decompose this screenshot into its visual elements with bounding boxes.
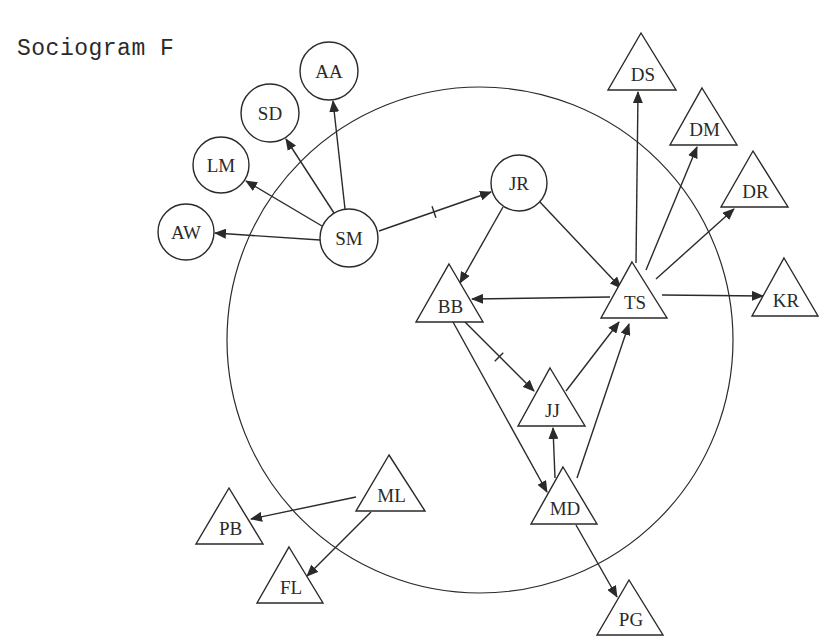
nodes-layer: AASDLMAWSMJRDSDMDRBBTSKRJJMDMLPBFLPG bbox=[158, 33, 818, 635]
tick-mark bbox=[495, 353, 503, 361]
node-label: SD bbox=[258, 103, 282, 124]
node-sd: SD bbox=[241, 84, 299, 142]
arrow-line bbox=[333, 101, 345, 209]
edge-ml-to-pb bbox=[251, 497, 356, 519]
node-label: DS bbox=[631, 64, 655, 85]
node-aa: AA bbox=[300, 42, 358, 100]
edge-jj-to-ts bbox=[566, 322, 619, 391]
node-label: FL bbox=[280, 577, 302, 598]
edge-ts-to-dm bbox=[646, 147, 697, 270]
node-kr: KR bbox=[752, 258, 818, 316]
node-fl: FL bbox=[257, 547, 323, 603]
node-label: DR bbox=[742, 181, 769, 202]
node-sm: SM bbox=[320, 209, 378, 267]
arrow-line bbox=[307, 512, 371, 576]
edge-sm-to-jr bbox=[379, 192, 491, 231]
node-label: AW bbox=[171, 222, 201, 243]
node-jr: JR bbox=[491, 155, 547, 211]
node-label: SM bbox=[335, 228, 363, 249]
arrow-line bbox=[576, 525, 617, 597]
node-label: JR bbox=[509, 173, 529, 194]
node-dm: DM bbox=[670, 88, 737, 145]
arrow-line bbox=[646, 147, 697, 270]
node-label: JJ bbox=[545, 400, 560, 421]
node-lm: LM bbox=[193, 137, 249, 193]
edge-ts-to-bb bbox=[472, 297, 610, 299]
sociogram-diagram: AASDLMAWSMJRDSDMDRBBTSKRJJMDMLPBFLPG bbox=[0, 0, 836, 643]
edge-jr-to-bb bbox=[460, 207, 503, 283]
edge-ts-to-kr bbox=[662, 295, 763, 296]
node-dr: DR bbox=[721, 151, 788, 207]
edge-md-to-ts bbox=[577, 324, 629, 478]
node-label: PB bbox=[219, 518, 242, 539]
edge-sm-to-sd bbox=[286, 139, 334, 213]
node-ds: DS bbox=[608, 33, 676, 90]
arrow-line bbox=[636, 92, 638, 263]
node-label: TS bbox=[624, 292, 646, 313]
node-label: LM bbox=[207, 155, 236, 176]
edge-md-to-pg bbox=[576, 525, 617, 597]
node-label: ML bbox=[377, 485, 406, 506]
arrow-line bbox=[539, 201, 621, 288]
arrow-line bbox=[662, 295, 763, 296]
node-jj: JJ bbox=[518, 368, 585, 426]
arrow-line bbox=[553, 428, 555, 478]
edge-jr-to-ts bbox=[539, 201, 621, 288]
arrow-line bbox=[379, 192, 491, 231]
node-pb: PB bbox=[196, 488, 263, 544]
node-label: KR bbox=[773, 290, 800, 311]
edge-ml-to-fl bbox=[307, 512, 371, 576]
arrow-line bbox=[460, 207, 503, 283]
arrow-line bbox=[472, 297, 610, 299]
arrow-line bbox=[251, 497, 356, 519]
edge-bb-to-jj bbox=[465, 322, 534, 391]
arrow-line bbox=[577, 324, 629, 478]
arrow-line bbox=[286, 139, 334, 213]
node-ml: ML bbox=[356, 455, 425, 511]
node-pg: PG bbox=[597, 580, 663, 635]
node-aw: AW bbox=[158, 204, 214, 260]
edge-md-to-jj bbox=[553, 428, 555, 478]
node-label: AA bbox=[315, 61, 343, 82]
node-label: BB bbox=[438, 296, 463, 317]
edge-ts-to-ds bbox=[636, 92, 638, 263]
edges-layer bbox=[215, 92, 763, 597]
node-bb: BB bbox=[416, 264, 483, 322]
edge-sm-to-aa bbox=[333, 101, 345, 209]
node-label: DM bbox=[689, 119, 720, 140]
group-boundary-circle bbox=[227, 87, 733, 593]
edge-sm-to-aw bbox=[215, 233, 320, 240]
arrow-line bbox=[566, 322, 619, 391]
node-ts: TS bbox=[601, 262, 667, 318]
node-md: MD bbox=[531, 467, 597, 524]
arrow-line bbox=[215, 233, 320, 240]
node-label: MD bbox=[550, 498, 581, 519]
node-label: PG bbox=[619, 609, 644, 630]
